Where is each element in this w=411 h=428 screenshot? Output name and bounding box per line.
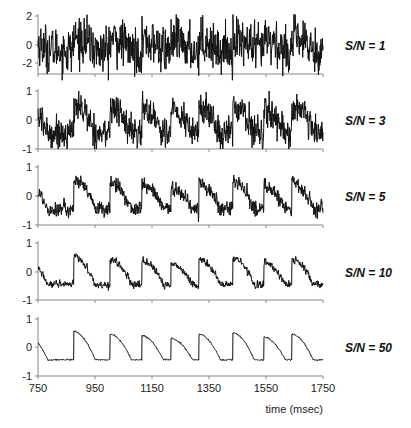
y-tick-label: -1 xyxy=(22,219,32,231)
y-tick-label: 0 xyxy=(26,266,32,278)
x-tick-label: 1350 xyxy=(197,382,221,394)
y-tick-label: 0 xyxy=(26,341,32,353)
y-tick-label: 1 xyxy=(26,85,32,97)
y-tick-label: 1 xyxy=(26,313,32,325)
y-tick-label: -2 xyxy=(22,57,32,69)
snr-label: S/N = 5 xyxy=(345,190,386,204)
x-tick-label: 1750 xyxy=(311,382,335,394)
panel-snr-50: 10-1S/N = 50 xyxy=(22,313,392,382)
panel-snr-5: 10-1S/N = 5 xyxy=(22,161,385,231)
x-tick-label: 1150 xyxy=(140,382,164,394)
y-tick-label: 2 xyxy=(26,10,32,22)
signal-trace xyxy=(38,254,323,291)
x-tick-label: 750 xyxy=(29,382,47,394)
signal-trace xyxy=(38,14,323,80)
panel-snr-3: 10-1S/N = 3 xyxy=(22,85,385,155)
panel-snr-10: 10-1S/N = 10 xyxy=(22,237,392,306)
x-tick-label: 1550 xyxy=(254,382,278,394)
snr-label: S/N = 50 xyxy=(345,341,392,355)
snr-comparison-figure: 20-2S/N = 110-1S/N = 310-1S/N = 510-1S/N… xyxy=(0,0,411,428)
snr-label: S/N = 10 xyxy=(345,266,392,280)
x-axis: 7509501150135015501750 xyxy=(29,382,335,394)
panel-snr-1: 20-2S/N = 1 xyxy=(22,10,385,80)
y-tick-label: -1 xyxy=(22,294,32,306)
y-tick-label: 0 xyxy=(26,114,32,126)
snr-label: S/N = 3 xyxy=(345,114,386,128)
x-axis-label: time (msec) xyxy=(266,403,323,415)
snr-label: S/N = 1 xyxy=(345,39,386,53)
x-tick-label: 950 xyxy=(86,382,104,394)
y-tick-label: 0 xyxy=(26,190,32,202)
signal-trace xyxy=(38,175,323,222)
y-tick-label: 1 xyxy=(26,237,32,249)
signal-trace xyxy=(38,91,323,149)
y-tick-label: 0 xyxy=(26,39,32,51)
y-tick-label: 1 xyxy=(26,161,32,173)
signal-trace xyxy=(38,331,323,361)
y-tick-label: -1 xyxy=(22,143,32,155)
y-tick-label: -1 xyxy=(22,370,32,382)
